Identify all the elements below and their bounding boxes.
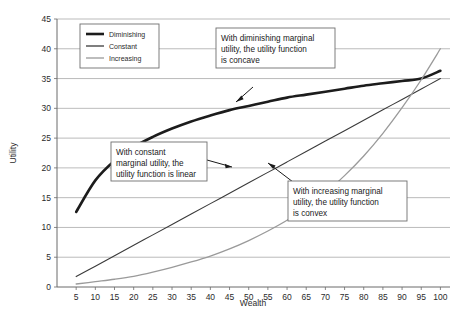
x-tick-label-15: 15: [110, 292, 120, 302]
x-tick-label-65: 65: [301, 292, 311, 302]
y-tick-label-45: 45: [42, 14, 52, 24]
x-tick-label-10: 10: [91, 292, 101, 302]
x-tick-label-80: 80: [359, 292, 369, 302]
linear-note-line-1: With constant: [116, 148, 166, 157]
x-tick-label-30: 30: [167, 292, 177, 302]
utility-function-chart: 051015202530354045 510152025303540455055…: [0, 0, 462, 329]
y-tick-label-30: 30: [42, 103, 52, 113]
x-tick-label-5: 5: [74, 292, 79, 302]
x-axis-title: Wealth: [240, 298, 267, 308]
x-tick-label-75: 75: [340, 292, 350, 302]
convex-note-line-1: With increasing marginal: [293, 187, 383, 196]
concave-note-line-2: utility, the utility function: [221, 45, 307, 54]
x-tick-label-45: 45: [225, 292, 235, 302]
concave-note-line-3: is concave: [221, 56, 260, 65]
x-tick-label-40: 40: [206, 292, 216, 302]
y-tick-label-40: 40: [42, 44, 52, 54]
x-tick-label-85: 85: [378, 292, 388, 302]
y-tick-label-35: 35: [42, 74, 52, 84]
x-tick-label-20: 20: [129, 292, 139, 302]
y-tick-label-20: 20: [42, 163, 52, 173]
chart-canvas: 051015202530354045 510152025303540455055…: [0, 0, 462, 329]
x-tick-label-60: 60: [282, 292, 292, 302]
x-tick-label-95: 95: [417, 292, 427, 302]
y-tick-label-0: 0: [46, 282, 51, 292]
y-tick-label-5: 5: [46, 252, 51, 262]
legend-label-increasing: Increasing: [109, 55, 141, 63]
linear-note-line-3: utility function is linear: [116, 170, 196, 179]
y-tick-label-10: 10: [42, 222, 52, 232]
legend: Diminishing Constant Increasing: [80, 24, 159, 68]
legend-label-constant: Constant: [109, 43, 137, 50]
legend-label-diminishing: Diminishing: [109, 31, 145, 39]
y-tick-label-15: 15: [42, 193, 52, 203]
x-tick-label-35: 35: [186, 292, 196, 302]
convex-note-line-2: utility, the utility function: [293, 198, 379, 207]
x-tick-label-70: 70: [321, 292, 331, 302]
x-tick-label-25: 25: [148, 292, 158, 302]
y-tick-label-25: 25: [42, 133, 52, 143]
linear-note-line-2: marginal utility, the: [116, 159, 184, 168]
concave-note-line-1: With diminishing marginal: [221, 34, 314, 43]
convex-note-line-3: is convex: [293, 209, 327, 218]
x-tick-label-90: 90: [397, 292, 407, 302]
y-axis-title: Utility: [8, 142, 18, 164]
x-tick-label-100: 100: [433, 292, 447, 302]
y-tick-labels-group: 051015202530354045: [42, 14, 52, 292]
